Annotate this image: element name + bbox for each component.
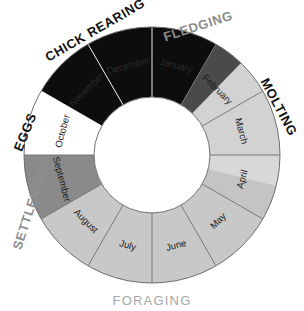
phase-label-foraging: FORAGING (113, 293, 192, 308)
cycle-wheel: JanuaryFebruaryMarchAprilMayJuneJulyAugu… (0, 0, 304, 311)
annual-cycle-diagram: JanuaryFebruaryMarchAprilMayJuneJulyAugu… (0, 0, 304, 311)
inner-hub (94, 97, 210, 213)
